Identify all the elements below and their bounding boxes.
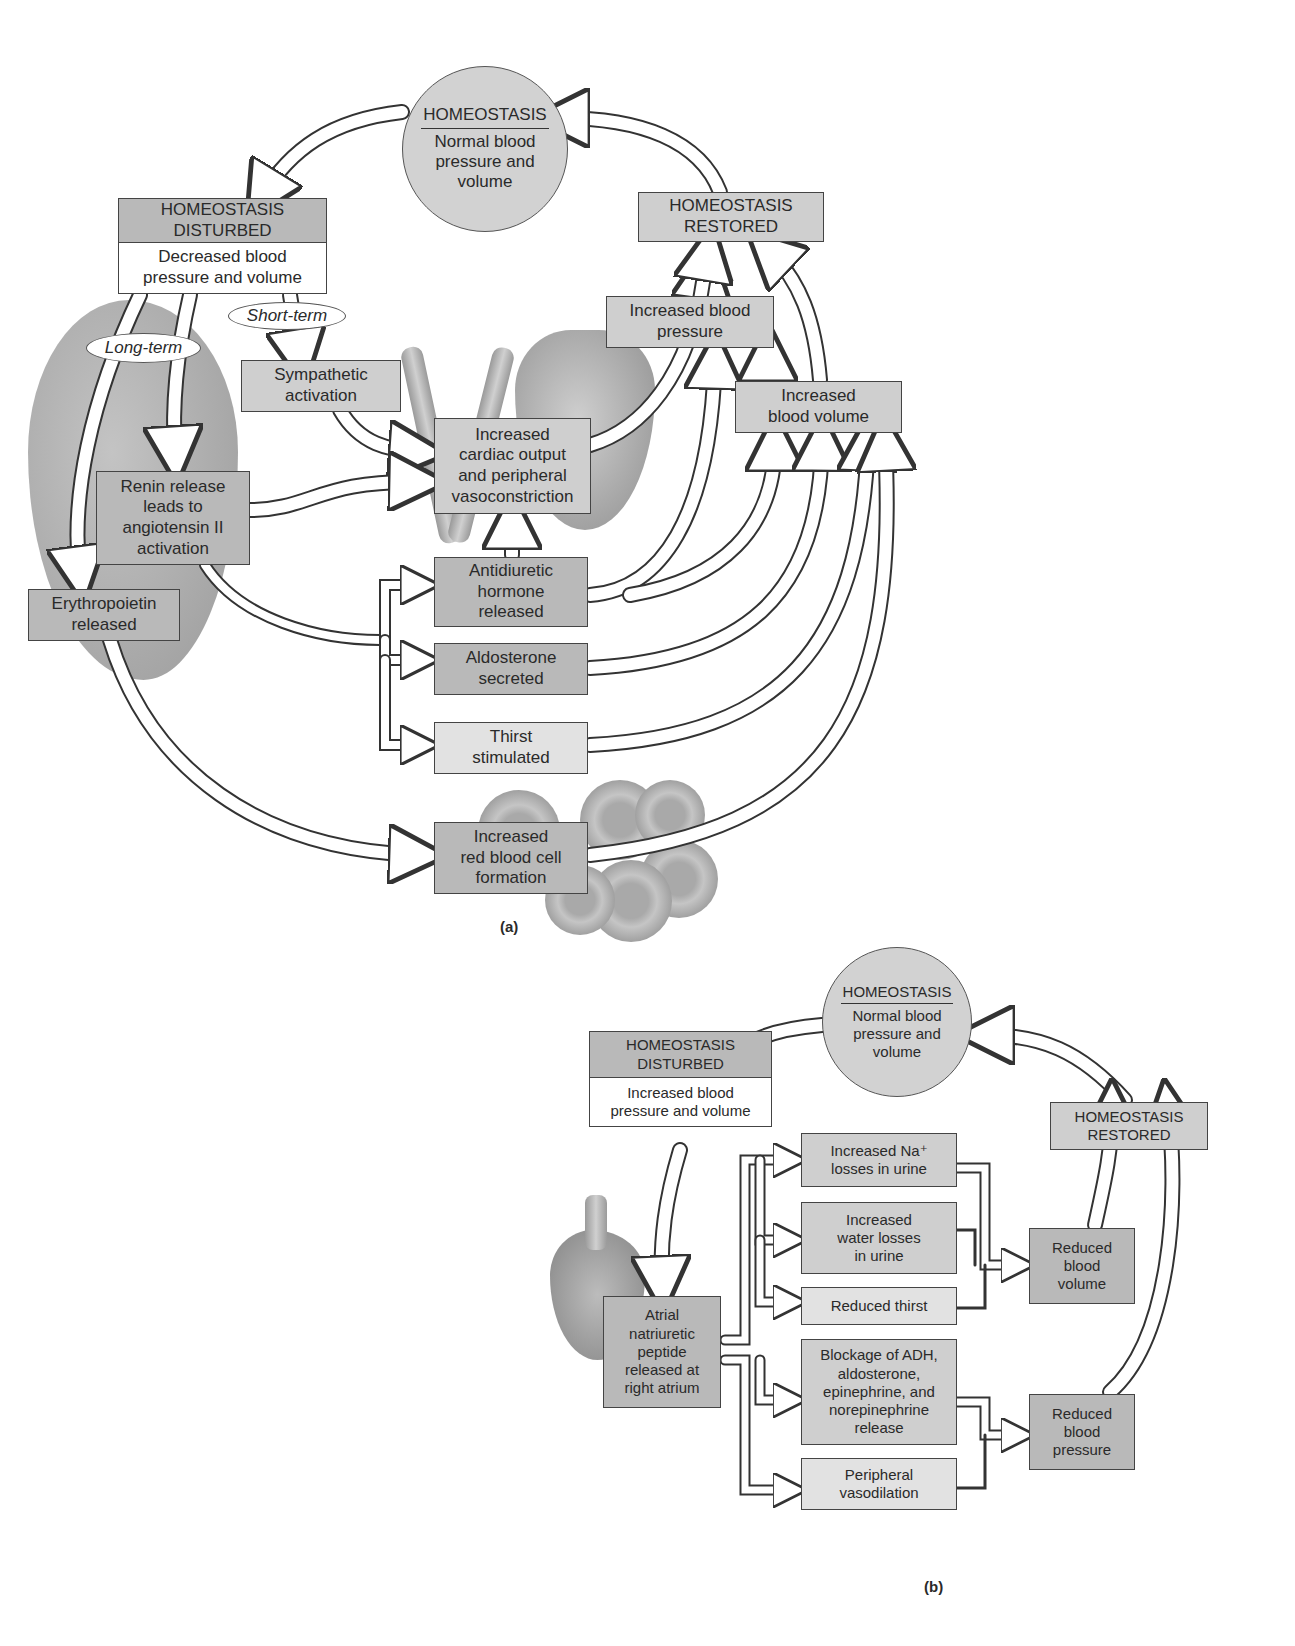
arrow-homeostasis-to-disturbed-a [262,112,402,196]
long-term-text: Long-term [105,338,182,358]
arrow-outputs-to-reduced-bp [955,1402,1018,1488]
box-line: peptide [637,1343,686,1361]
panel-a-label: (a) [500,918,518,935]
box-line: norepinephrine [829,1401,929,1419]
arrow-bracket-aldo [385,640,420,660]
homeostasis-title: HOMEOSTASIS [421,105,548,128]
box-line: pressure [657,322,723,343]
box-line: Antidiuretic [469,561,553,582]
box-line: Increased [781,386,856,407]
disturbed-header: HOMEOSTASIS DISTURBED [590,1032,771,1078]
increased-bp-box: Increased blood pressure [606,296,774,348]
box-line: leads to [143,497,203,518]
box-line: Thirst [490,727,533,748]
box-line: Erythropoietin [52,594,157,615]
disturbed-title-line: HOMEOSTASIS [590,1036,771,1054]
panel-b-label: (b) [924,1578,943,1595]
box-line: activation [285,386,357,407]
disturbed-body-line: pressure and volume [119,268,326,289]
reduced-thirst-box: Reduced thirst [801,1287,957,1325]
disturbed-box-b: HOMEOSTASIS DISTURBED Increased blood pr… [589,1031,772,1127]
arrow-renin-to-hormones [205,565,380,640]
disturbed-body-line: Decreased blood [119,247,326,268]
box-line: cardiac output [459,445,566,466]
arrow-rbc-to-incbv [590,442,887,855]
box-line: blood [1064,1423,1101,1441]
reduced-bp-box: Reduced blood pressure [1029,1394,1135,1470]
increased-bv-box: Increased blood volume [735,381,902,433]
box-line: natriuretic [629,1325,695,1343]
box-line: released [71,615,136,636]
disturbed-header: HOMEOSTASIS DISTURBED [119,199,326,243]
homeostasis-circle-b: HOMEOSTASIS Normal blood pressure and vo… [822,947,972,1097]
arrow-anp-bracket-thirst [760,1240,790,1302]
box-line: and peripheral [458,466,567,487]
box-line: in urine [854,1247,903,1265]
arrow-anp-bracket-water [760,1160,790,1240]
box-line: vasodilation [839,1484,918,1502]
short-term-text: Short-term [247,306,327,326]
box-line: blood [1064,1257,1101,1275]
arrow-outputs-to-reduced-bv [955,1168,1018,1308]
arrow-restored-to-homeostasis-a [560,118,720,192]
box-line: Increased blood [630,301,751,322]
box-line: Sympathetic [274,365,368,386]
aldosterone-box: Aldosterone secreted [434,643,588,695]
box-line: blood volume [768,407,869,428]
box-line: right atrium [624,1379,699,1397]
box-line: Renin release [121,477,226,498]
box-line: pressure [1053,1441,1111,1459]
box-line: released at [625,1361,699,1379]
long-term-label: Long-term [86,333,201,363]
arrow-long-term-renin [174,295,190,455]
homeostasis-circle-a: HOMEOSTASIS Normal blood pressure and vo… [402,66,568,232]
arrow-incbp-to-restored [700,252,708,300]
adh-released-box: Antidiuretic hormone released [434,557,588,627]
box-line: released [478,602,543,623]
box-line: angiotensin II [122,518,223,539]
box-line: Increased [475,425,550,446]
disturbed-body-line: Increased blood [590,1084,771,1102]
arrow-renin-to-cardiac [250,482,418,510]
blockage-box: Blockage of ADH, aldosterone, epinephrin… [801,1339,957,1445]
box-line: red blood cell [460,848,561,869]
arrow-anp-bracket-blockage [760,1360,790,1400]
box-line: losses in urine [831,1160,927,1178]
erythropoietin-box: Erythropoietin released [28,589,180,641]
disturbed-box-a: HOMEOSTASIS DISTURBED Decreased blood pr… [118,198,327,294]
arrow-bracket-adh [385,585,420,640]
disturbed-body-line: pressure and volume [590,1102,771,1120]
disturbed-body: Decreased blood pressure and volume [119,243,326,293]
reduced-bv-box: Reduced blood volume [1029,1228,1135,1304]
box-line: water losses [837,1229,920,1247]
box-line: release [854,1419,903,1437]
thirst-stimulated-box: Thirst stimulated [434,722,588,774]
na-losses-box: Increased Na⁺ losses in urine [801,1133,957,1187]
sympathetic-activation-box: Sympathetic activation [241,360,401,412]
water-losses-box: Increased water losses in urine [801,1202,957,1274]
rbc-formation-box: Increased red blood cell formation [434,822,588,894]
box-line: volume [1058,1275,1106,1293]
restored-box-b: HOMEOSTASIS RESTORED [1050,1102,1208,1150]
homeostasis-line: Normal blood [852,1007,941,1025]
homeostasis-line: pressure and [853,1025,941,1043]
homeostasis-title: HOMEOSTASIS [841,983,954,1004]
homeostasis-line: pressure and [435,152,534,172]
restored-line: HOMEOSTASIS [1075,1108,1184,1126]
disturbed-title-line: DISTURBED [590,1055,771,1073]
arrow-disturbed-to-anp [662,1150,680,1285]
box-line: formation [476,868,547,889]
arrow-epo-to-rbc [110,640,418,855]
homeostasis-line: Normal blood [434,132,535,152]
box-line: hormone [477,582,544,603]
box-line: Increased [846,1211,912,1229]
box-line: Reduced thirst [831,1297,928,1315]
box-line: Blockage of ADH, [820,1346,938,1364]
short-term-label: Short-term [228,302,346,330]
box-line: Reduced [1052,1405,1112,1423]
box-line: Aldosterone [466,648,557,669]
box-line: Atrial [645,1306,679,1324]
box-line: Peripheral [845,1466,913,1484]
restored-line: RESTORED [1087,1126,1170,1144]
restored-line: RESTORED [684,217,778,238]
